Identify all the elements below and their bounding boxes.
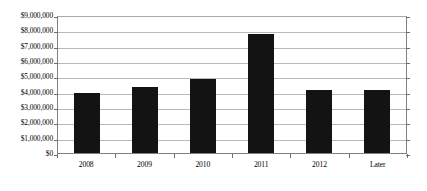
bar-slot <box>348 17 406 153</box>
x-tick-label: 2010 <box>174 160 232 176</box>
y-tick-label: $1,000,000 <box>21 135 53 143</box>
bar-chart: $0$1,000,000$2,000,000$3,000,000$4,000,0… <box>0 0 427 191</box>
x-tick-mark <box>349 154 350 158</box>
y-tick-mark-right <box>406 109 410 110</box>
x-tick-label: 2008 <box>57 160 115 176</box>
y-tick-mark-right <box>406 94 410 95</box>
x-tick-label: 2009 <box>115 160 173 176</box>
y-tick-label: $7,000,000 <box>21 43 53 51</box>
x-tick-label: 2011 <box>232 160 290 176</box>
x-tick-mark <box>115 154 116 158</box>
y-tick-label: $3,000,000 <box>21 104 53 112</box>
y-tick-mark-right <box>406 63 410 64</box>
x-axis: 20082009201020112012Later <box>57 160 407 176</box>
bar-slot <box>290 17 348 153</box>
bar[interactable] <box>74 93 100 153</box>
x-tick-label: 2012 <box>290 160 348 176</box>
y-tick-mark-right <box>406 48 410 49</box>
plot-area <box>57 16 407 154</box>
bar[interactable] <box>306 90 332 153</box>
bar-slot <box>174 17 232 153</box>
y-tick-label: $4,000,000 <box>21 89 53 97</box>
bar[interactable] <box>132 87 158 153</box>
y-axis: $0$1,000,000$2,000,000$3,000,000$4,000,0… <box>0 0 57 191</box>
y-tick-label: $5,000,000 <box>21 73 53 81</box>
bar[interactable] <box>364 90 390 153</box>
bar-slot <box>232 17 290 153</box>
x-tick-mark <box>232 154 233 158</box>
x-tick-mark <box>407 154 408 158</box>
y-tick-mark-right <box>406 32 410 33</box>
bar[interactable] <box>190 79 216 153</box>
x-axis-ticks <box>57 154 407 159</box>
y-tick-label: $6,000,000 <box>21 58 53 66</box>
y-tick-label: $8,000,000 <box>21 27 53 35</box>
y-tick-label: $9,000,000 <box>21 12 53 20</box>
y-tick-mark-right <box>406 140 410 141</box>
x-tick-mark <box>290 154 291 158</box>
y-tick-label: $2,000,000 <box>21 119 53 127</box>
x-tick-mark <box>57 154 58 158</box>
bar[interactable] <box>248 34 274 153</box>
y-tick-mark-right <box>406 124 410 125</box>
x-tick-mark <box>174 154 175 158</box>
x-tick-label: Later <box>349 160 407 176</box>
bars-layer <box>58 17 406 153</box>
bar-slot <box>116 17 174 153</box>
y-tick-label: $0 <box>46 150 53 158</box>
y-tick-mark-right <box>406 78 410 79</box>
bar-slot <box>58 17 116 153</box>
y-tick-mark-right <box>406 17 410 18</box>
